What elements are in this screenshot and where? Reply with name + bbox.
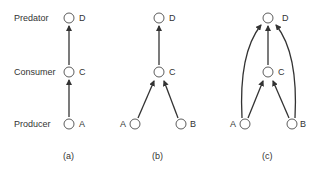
panel-caption-c: (c) [262, 151, 273, 161]
node-d [154, 13, 164, 23]
panel-a: D C A (a) [63, 13, 86, 161]
node-c [263, 67, 273, 77]
level-label-consumer: Consumer [14, 67, 56, 77]
node-b [287, 119, 297, 129]
node-d [263, 13, 273, 23]
panel-b: D C A B (b) [120, 13, 196, 161]
food-web-diagram: Predator Consumer Producer D C A (a) D C… [0, 0, 315, 169]
node-b [176, 119, 186, 129]
node-label-d: D [169, 13, 176, 23]
node-c [64, 67, 74, 77]
node-c [154, 67, 164, 77]
level-label-predator: Predator [14, 13, 49, 23]
node-label-d: D [79, 13, 86, 23]
node-label-b: B [190, 119, 196, 129]
node-a [64, 119, 74, 129]
arrow-a-to-d [242, 25, 261, 118]
arrow-a-to-c [248, 81, 263, 118]
node-label-c: C [79, 67, 86, 77]
node-label-a: A [120, 119, 126, 129]
node-label-c: C [169, 67, 176, 77]
panel-caption-a: (a) [63, 151, 74, 161]
arrow-a-to-c [138, 81, 154, 118]
panel-caption-b: (b) [152, 151, 163, 161]
node-label-a: A [79, 119, 85, 129]
arrow-b-to-c [164, 81, 178, 118]
node-label-b: B [300, 119, 306, 129]
node-label-d: D [282, 13, 289, 23]
node-label-c: C [278, 67, 285, 77]
node-a [130, 119, 140, 129]
arrow-b-to-c [273, 81, 289, 118]
node-label-a: A [230, 119, 236, 129]
panel-c: D C A B (c) [230, 13, 306, 161]
node-a [240, 119, 250, 129]
node-d [64, 13, 74, 23]
level-label-producer: Producer [14, 119, 51, 129]
